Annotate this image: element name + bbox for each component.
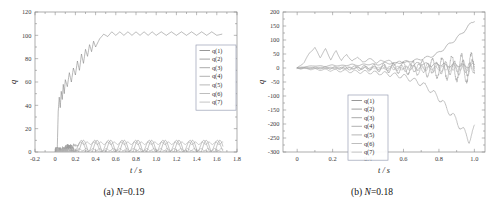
panel-b: 00.20.40.60.81.0200150100500-50-100-150-… xyxy=(248,0,496,220)
x-tick-label: 0.6 xyxy=(112,155,120,162)
chart-b-svg: 00.20.40.60.81.0200150100500-50-100-150-… xyxy=(248,0,496,180)
legend: q(1)q(2)q(3)q(4)q(5)q(6)q(7) xyxy=(196,45,236,110)
y-tick-label: 100 xyxy=(270,36,280,43)
caption-b-prefix: (b) xyxy=(351,187,364,197)
x-tick-label: 1.2 xyxy=(172,155,180,162)
legend-label: q(7) xyxy=(212,98,222,106)
legend-label: q(4) xyxy=(364,122,374,130)
y-tick-label: 100 xyxy=(22,32,32,39)
caption-a-prefix: (a) xyxy=(103,187,116,197)
x-tick-label: 0.8 xyxy=(435,155,443,162)
plot-b: 00.20.40.60.81.0200150100500-50-100-150-… xyxy=(248,0,496,180)
x-tick-label: 1.6 xyxy=(213,155,221,162)
x-tick-label: 0 xyxy=(54,155,57,162)
x-tick-label: 0.2 xyxy=(329,155,337,162)
x-tick-label: 0.8 xyxy=(132,155,140,162)
legend-label: q(6) xyxy=(364,140,374,148)
legend-label: q(6) xyxy=(212,90,222,98)
panel-a: -0.200.20.40.60.81.01.21.41.61.802040608… xyxy=(0,0,248,220)
y-tick-label: -50 xyxy=(271,78,280,85)
x-tick-label: 0.4 xyxy=(92,155,101,162)
y-tick-label: 60 xyxy=(25,78,31,85)
legend-label: q(5) xyxy=(364,131,374,139)
caption-b-value: =0.18 xyxy=(371,187,393,197)
x-tick-label: 1.8 xyxy=(233,155,241,162)
x-axis-title: t / s xyxy=(378,166,390,175)
y-tick-label: 200 xyxy=(270,8,280,15)
chart-a-svg: -0.200.20.40.60.81.01.21.41.61.802040608… xyxy=(0,0,248,180)
x-axis-title: t / s xyxy=(130,166,142,175)
y-tick-label: 120 xyxy=(22,8,32,15)
y-tick-label: -150 xyxy=(268,106,280,113)
y-tick-label: 0 xyxy=(28,148,31,155)
legend: q(1)q(2)q(3)q(4)q(5)q(6)q(7) xyxy=(348,95,388,160)
y-tick-label: 20 xyxy=(25,125,31,132)
caption-b: (b) N=0.18 xyxy=(248,187,496,197)
y-tick-label: 40 xyxy=(25,102,31,109)
figure-two-panel-plot: -0.200.20.40.60.81.01.21.41.61.802040608… xyxy=(0,0,496,220)
x-tick-label: 0.6 xyxy=(399,155,407,162)
x-tick-label: 0.2 xyxy=(71,155,79,162)
y-axis-title: q xyxy=(9,80,18,84)
caption-a: (a) N=0.19 xyxy=(0,187,248,197)
y-tick-label: -250 xyxy=(268,134,280,141)
y-tick-label: 150 xyxy=(270,22,280,29)
legend-label: q(1) xyxy=(212,47,222,55)
legend-label: q(7) xyxy=(364,148,374,156)
x-tick-label: 1.0 xyxy=(152,155,160,162)
legend-label: q(3) xyxy=(364,114,374,122)
legend-label: q(1) xyxy=(364,97,374,105)
y-tick-label: 80 xyxy=(25,55,31,62)
y-tick-label: 0 xyxy=(276,64,279,71)
legend-label: q(3) xyxy=(212,64,222,72)
y-tick-label: 50 xyxy=(273,50,279,57)
x-tick-label: 1.4 xyxy=(193,155,202,162)
legend-label: q(2) xyxy=(364,105,374,113)
plot-a: -0.200.20.40.60.81.01.21.41.61.802040608… xyxy=(0,0,248,180)
x-tick-label: 0 xyxy=(296,155,299,162)
legend-label: q(5) xyxy=(212,81,222,89)
y-tick-label: -200 xyxy=(268,120,280,127)
x-tick-label: 1.0 xyxy=(470,155,478,162)
x-tick-label: -0.2 xyxy=(30,155,40,162)
y-tick-label: -100 xyxy=(268,92,280,99)
y-axis-title: q xyxy=(257,80,266,84)
y-tick-label: -300 xyxy=(268,148,280,155)
caption-a-value: =0.19 xyxy=(123,187,145,197)
legend-label: q(2) xyxy=(212,55,222,63)
series-line xyxy=(297,47,474,68)
legend-label: q(4) xyxy=(212,72,222,80)
